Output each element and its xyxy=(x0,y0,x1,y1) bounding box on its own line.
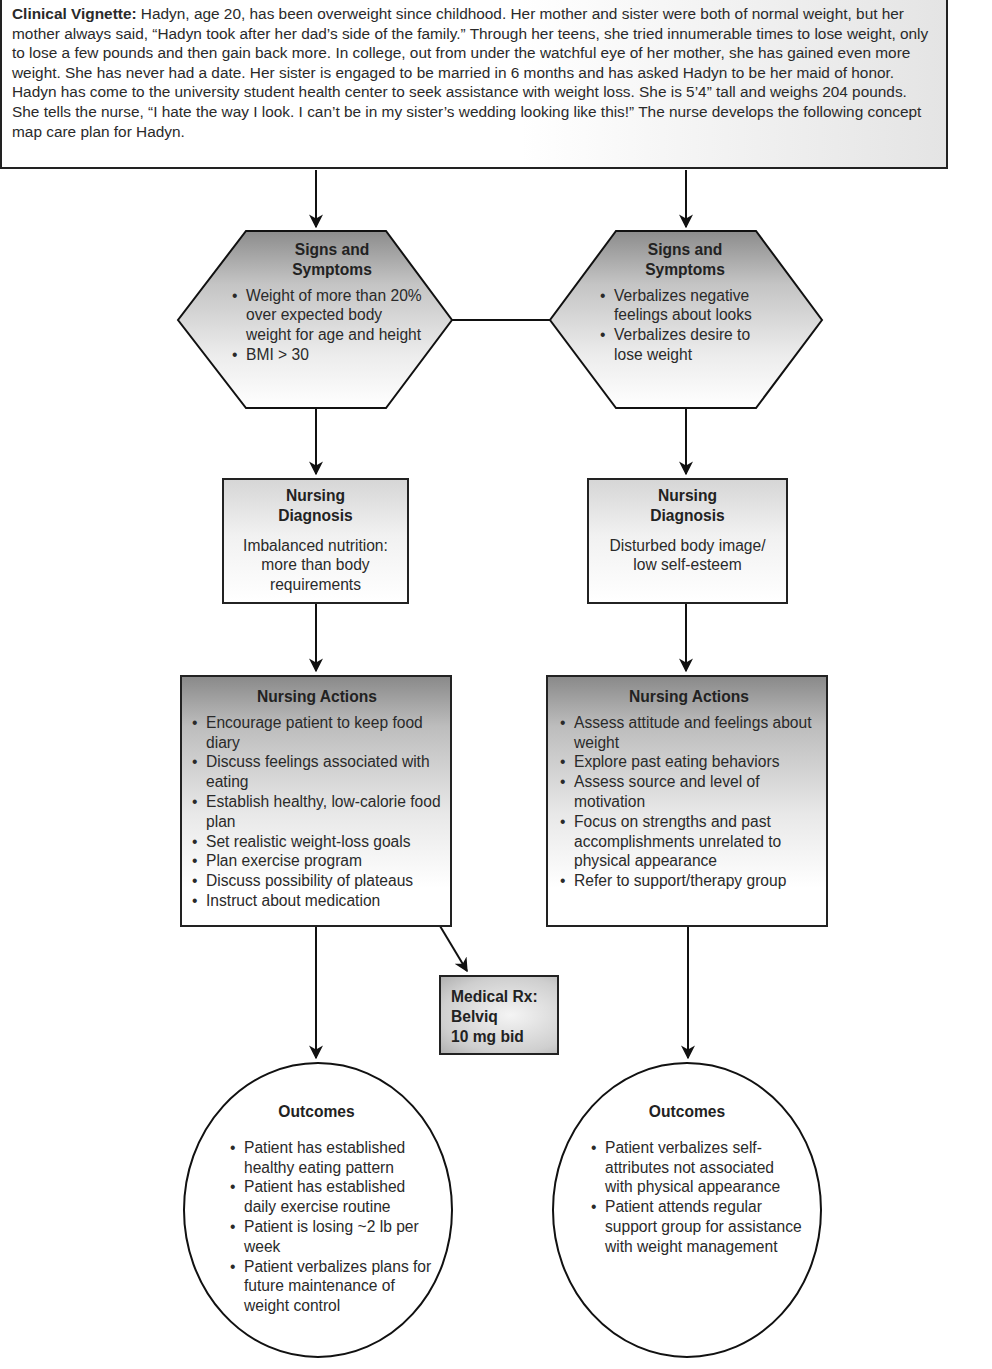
list-item: Set realistic weight-loss goals xyxy=(192,832,442,852)
list-item: Discuss possibility of plateaus xyxy=(192,871,442,891)
signs-symptoms-right: Signs and Symptoms Verbalizes negative f… xyxy=(600,240,780,365)
list-item: Verbalizes negative feelings about looks xyxy=(600,286,778,326)
rx-dose: 10 mg bid xyxy=(451,1027,557,1047)
outcomes-title-right: Outcomes xyxy=(583,1102,791,1122)
actions-list-right: Assess attitude and feelings about weigh… xyxy=(560,713,818,891)
diagnosis-title-right: Nursing Diagnosis xyxy=(589,486,786,526)
list-item: Patient has established daily exercise r… xyxy=(230,1177,434,1217)
nursing-diagnosis-left: Nursing Diagnosis Imbalanced nutrition: … xyxy=(222,478,409,604)
signs-title-right: Signs and Symptoms xyxy=(600,240,770,280)
diagnosis-title-left: Nursing Diagnosis xyxy=(224,486,407,526)
list-item: Instruct about medication xyxy=(192,891,442,911)
signs-title-left: Signs and Symptoms xyxy=(232,240,432,280)
outcomes-list-left: Patient has established healthy eating p… xyxy=(214,1138,434,1316)
list-item: Assess source and level of motivation xyxy=(560,772,818,812)
nursing-actions-right: Nursing Actions Assess attitude and feel… xyxy=(546,675,828,927)
list-item: Focus on strengths and past accomplishme… xyxy=(560,812,818,871)
list-item: Patient has established healthy eating p… xyxy=(230,1138,434,1178)
list-item: Assess attitude and feelings about weigh… xyxy=(560,713,818,753)
diagnosis-text-right: Disturbed body image/ low self-esteem xyxy=(589,536,786,576)
list-item: Plan exercise program xyxy=(192,851,442,871)
nursing-actions-left: Nursing Actions Encourage patient to kee… xyxy=(180,675,452,927)
nursing-diagnosis-right: Nursing Diagnosis Disturbed body image/ … xyxy=(587,478,788,604)
list-item: Patient is losing ~2 lb per week xyxy=(230,1217,434,1257)
signs-list-left: Weight of more than 20% over expected bo… xyxy=(232,286,422,365)
diagnosis-text-left: Imbalanced nutrition: more than body req… xyxy=(224,536,407,595)
rx-drug: Belviq xyxy=(451,1007,557,1027)
outcomes-left: Outcomes Patient has established healthy… xyxy=(214,1102,434,1316)
list-item: Patient verbalizes plans for future main… xyxy=(230,1257,434,1316)
rx-label: Medical Rx: xyxy=(451,987,557,1007)
list-item: Verbalizes desire to lose weight xyxy=(600,325,778,365)
list-item: Refer to support/therapy group xyxy=(560,871,818,891)
arrow-actions-rx xyxy=(440,926,467,971)
list-item: Establish healthy, low-calorie food plan xyxy=(192,792,442,832)
signs-symptoms-left: Signs and Symptoms Weight of more than 2… xyxy=(232,240,432,365)
list-item: Patient verbalizes self-attributes not a… xyxy=(591,1138,803,1197)
outcomes-title-left: Outcomes xyxy=(214,1102,419,1122)
list-item: Explore past eating behaviors xyxy=(560,752,818,772)
actions-list-left: Encourage patient to keep food diary Dis… xyxy=(192,713,442,911)
list-item: Encourage patient to keep food diary xyxy=(192,713,442,753)
actions-title-right: Nursing Actions xyxy=(560,687,818,707)
list-item: BMI > 30 xyxy=(232,345,422,365)
actions-title-left: Nursing Actions xyxy=(192,687,442,707)
list-item: Weight of more than 20% over expected bo… xyxy=(232,286,422,345)
list-item: Discuss feelings associated with eating xyxy=(192,752,442,792)
list-item: Patient attends regular support group fo… xyxy=(591,1197,803,1256)
outcomes-right: Outcomes Patient verbalizes self-attribu… xyxy=(583,1102,803,1257)
signs-list-right: Verbalizes negative feelings about looks… xyxy=(600,286,778,365)
medical-rx-box: Medical Rx: Belviq 10 mg bid xyxy=(439,975,559,1055)
concept-map-connectors xyxy=(0,0,992,1369)
outcomes-list-right: Patient verbalizes self-attributes not a… xyxy=(583,1138,803,1257)
